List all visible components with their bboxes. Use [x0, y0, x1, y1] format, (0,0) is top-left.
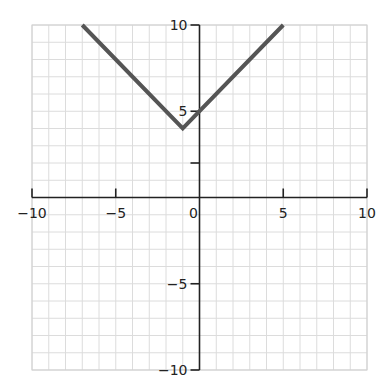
x-tick-label: 0 — [189, 205, 198, 221]
x-tick-label: 10 — [358, 205, 376, 221]
x-tick-label: 5 — [279, 205, 288, 221]
y-tick-label: 5 — [179, 103, 188, 119]
x-tick-label: −5 — [105, 205, 126, 221]
coordinate-plane-chart: −10−50510105−5−10 — [0, 0, 387, 390]
x-tick-label: −10 — [17, 205, 47, 221]
y-tick-label: 10 — [170, 17, 188, 33]
y-tick-label: −5 — [167, 276, 188, 292]
y-tick-label: −10 — [158, 362, 188, 378]
